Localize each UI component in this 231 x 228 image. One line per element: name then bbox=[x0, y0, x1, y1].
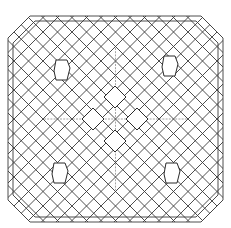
diagonal-lattice bbox=[0, 0, 231, 228]
quilt-pattern-svg bbox=[0, 0, 231, 228]
quilt-pattern-figure bbox=[0, 0, 231, 228]
